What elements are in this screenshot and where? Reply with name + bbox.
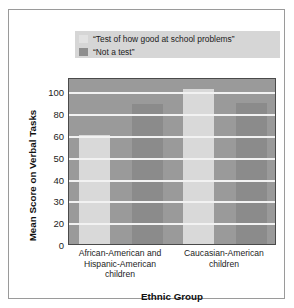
- x-axis-tick-label-line: Caucasian-American: [172, 248, 276, 259]
- legend-label-not-a-test: “Not a test”: [93, 47, 134, 57]
- gridline: [69, 201, 275, 203]
- legend-item-not-a-test: “Not a test”: [79, 46, 280, 58]
- x-axis-tick-label-line: African-American and: [68, 248, 172, 259]
- bar: [79, 135, 110, 244]
- legend-swatch-light-icon: [79, 35, 88, 43]
- gridline: [69, 180, 275, 182]
- x-axis-tick-label: African-American andHispanic-Americanchi…: [68, 248, 172, 280]
- gridline: [69, 158, 275, 160]
- plot-wrapper: [68, 78, 276, 245]
- y-axis-tick-label: 50: [53, 152, 64, 163]
- y-axis-tick-label: 100: [48, 87, 64, 98]
- gridline: [69, 114, 275, 116]
- y-axis-tick-label: 40: [53, 174, 64, 185]
- plot-area: [68, 78, 276, 245]
- y-axis: Mean Score on Verbal Tasks 0203040506080…: [9, 78, 68, 245]
- x-axis-tick-label: Caucasian-Americanchildren: [172, 248, 276, 269]
- y-axis-tick-label: 20: [53, 218, 64, 229]
- figure-root: “Test of how good at school problems” “N…: [0, 0, 294, 308]
- legend-item-test: “Test of how good at school problems”: [79, 33, 280, 45]
- y-axis-title: Mean Score on Verbal Tasks: [27, 101, 38, 251]
- gridline: [69, 92, 275, 94]
- bar: [183, 89, 214, 244]
- x-axis-tick-label-line: children: [172, 259, 276, 270]
- y-axis-tick-label: 30: [53, 196, 64, 207]
- y-axis-tick-label: 0: [59, 240, 64, 251]
- x-axis-tick-label-line: Hispanic-American: [68, 259, 172, 270]
- figure-frame: “Test of how good at school problems” “N…: [8, 9, 285, 299]
- gridline: [69, 136, 275, 138]
- x-axis-tick-labels: African-American andHispanic-Americanchi…: [68, 248, 276, 288]
- chart-legend: “Test of how good at school problems” “N…: [75, 31, 280, 58]
- x-axis-title: Ethnic Group: [68, 291, 276, 302]
- legend-label-test: “Test of how good at school problems”: [93, 34, 235, 44]
- y-axis-tick-label: 60: [53, 130, 64, 141]
- legend-swatch-dark-icon: [79, 48, 88, 56]
- x-axis-tick-label-line: children: [68, 269, 172, 280]
- y-axis-tick-label: 80: [53, 109, 64, 120]
- gridline: [69, 223, 275, 225]
